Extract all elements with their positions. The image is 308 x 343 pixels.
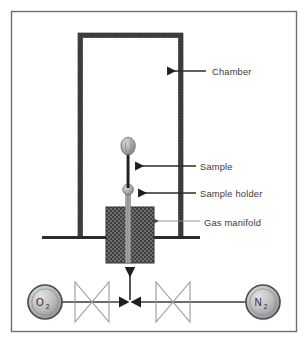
outer-frame (12, 12, 297, 332)
label-sample-holder: Sample holder (200, 188, 262, 199)
apparatus-diagram: O 2 N 2 Chamber Sample Sample holder Gas… (0, 0, 308, 343)
sample-assembly (121, 137, 135, 188)
o2-formula-label: O (36, 297, 44, 308)
n2-subscript-label: 2 (264, 303, 268, 310)
gas-cylinder-n2[interactable]: N 2 (246, 285, 280, 319)
figure-container: O 2 N 2 Chamber Sample Sample holder Gas… (0, 0, 308, 343)
label-gas-manifold: Gas manifold (204, 217, 261, 228)
o2-subscript-label: 2 (46, 303, 50, 310)
junction-arrow-right (131, 297, 142, 308)
label-sample: Sample (200, 161, 233, 172)
gas-cylinder-o2[interactable]: O 2 (28, 285, 62, 319)
gas-plumbing (62, 268, 246, 308)
label-chamber: Chamber (212, 66, 252, 77)
n2-formula-label: N (254, 297, 261, 308)
sample-stem (127, 152, 130, 188)
leader-lines (136, 71, 206, 221)
sample-bud (121, 137, 135, 155)
junction-arrow-left (119, 297, 130, 308)
